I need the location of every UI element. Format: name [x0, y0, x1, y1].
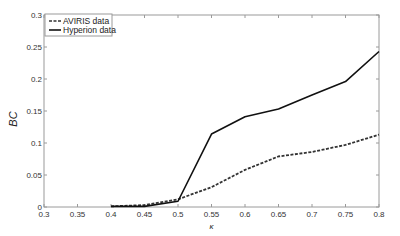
y-tick-label: 0.15	[26, 107, 42, 116]
x-tick-label: 0.7	[306, 210, 318, 219]
x-tick-label: 0.75	[338, 210, 354, 219]
x-tick-label: 0.65	[271, 210, 287, 219]
x-tick-label: 0.8	[373, 210, 385, 219]
y-tick-label: 0.1	[31, 139, 43, 148]
x-axis-label: κ	[210, 222, 215, 231]
x-tick-label: 0.5	[172, 210, 184, 219]
chart: 0.30.350.40.450.50.550.60.650.70.750.8 0…	[0, 0, 400, 236]
x-tick-label: 0.6	[239, 210, 251, 219]
x-tick-label: 0.55	[204, 210, 220, 219]
y-tick-label: 0	[38, 203, 43, 212]
y-tick-label: 0.25	[26, 43, 42, 52]
x-tick-label: 0.35	[70, 210, 86, 219]
x-tick-label: 0.45	[137, 210, 153, 219]
y-axis-label: BC	[7, 111, 19, 126]
y-tick-label: 0.05	[26, 171, 42, 180]
plot-area	[44, 15, 379, 207]
legend: AVIRIS dataHyperion data	[45, 14, 116, 36]
y-tick-label: 0.2	[31, 75, 43, 84]
x-tick-label: 0.4	[105, 210, 117, 219]
y-tick-label: 0.3	[31, 11, 43, 20]
legend-label: Hyperion data	[63, 25, 116, 35]
